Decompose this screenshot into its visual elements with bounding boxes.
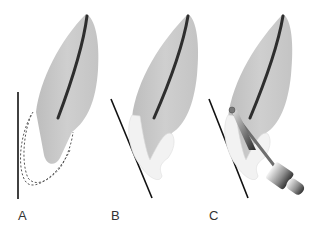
panel-a-tooth — [18, 14, 98, 199]
panel-label-a: A — [18, 208, 27, 223]
dental-figure: A B C — [0, 0, 328, 241]
panel-b-tooth — [111, 14, 198, 198]
panel-label-c: C — [209, 208, 218, 223]
panel-label-b: B — [111, 208, 120, 223]
panel-c-tooth — [209, 14, 308, 200]
